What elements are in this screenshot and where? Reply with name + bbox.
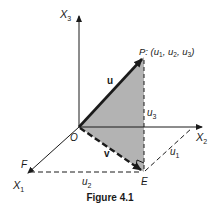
point-f-label: F bbox=[21, 159, 28, 170]
point-e-label: E bbox=[141, 176, 148, 187]
figure-caption: Figure 4.1 bbox=[0, 192, 220, 203]
vector-v-label: v bbox=[104, 148, 110, 159]
x3-axis-label: X3 bbox=[59, 8, 71, 22]
origin-label: O bbox=[70, 132, 78, 143]
x1-axis-label: X1 bbox=[12, 179, 24, 193]
u3-label: u3 bbox=[147, 107, 157, 120]
point-p-label: P: (u1, u2, u3) bbox=[139, 46, 194, 58]
u1-label: u1 bbox=[170, 146, 180, 159]
vector-diagram: X3 X2 X1 P: (u1, u2, u3) O E F u v u3 u1… bbox=[0, 0, 220, 210]
vector-u-label: u bbox=[107, 75, 113, 86]
x2-axis-label: X2 bbox=[195, 131, 207, 145]
u2-label: u2 bbox=[82, 176, 92, 189]
dashed-u1-line bbox=[145, 128, 192, 171]
